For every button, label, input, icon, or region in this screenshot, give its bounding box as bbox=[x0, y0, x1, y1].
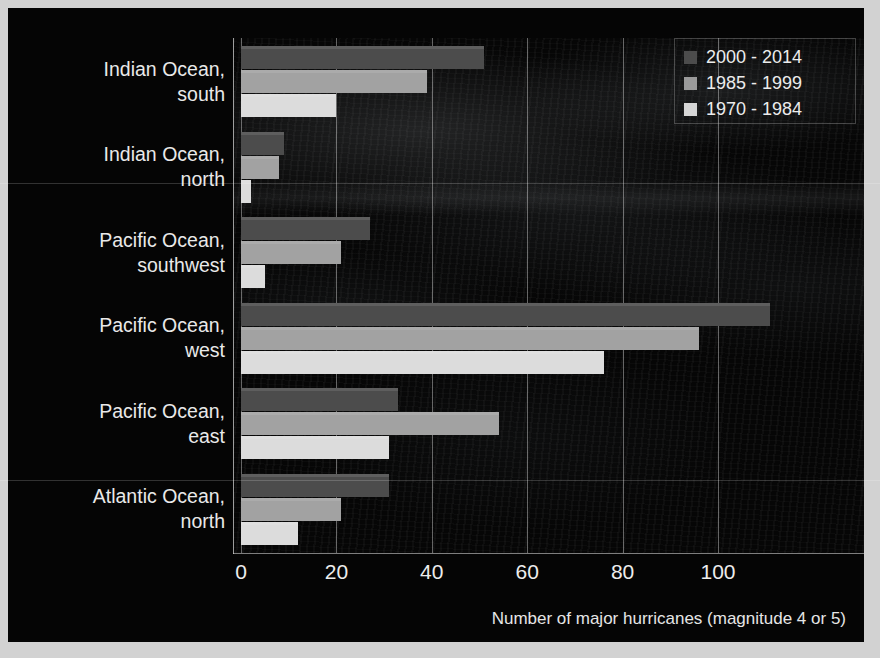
gridline-60 bbox=[527, 38, 528, 553]
legend-swatch-icon bbox=[684, 51, 697, 64]
x-tick-60: 60 bbox=[497, 560, 557, 584]
bar-2-series-1 bbox=[241, 241, 341, 264]
category-label-line1: Indian Ocean, bbox=[20, 57, 225, 82]
horizon-band bbox=[233, 180, 864, 216]
category-label-5: Atlantic Ocean,north bbox=[20, 484, 225, 534]
bar-0-series-1 bbox=[241, 70, 427, 93]
category-label-line1: Pacific Ocean, bbox=[20, 399, 225, 424]
gridline-80 bbox=[623, 38, 624, 553]
bar-1-series-1 bbox=[241, 156, 279, 179]
chart-frame: Indian Ocean,southIndian Ocean,northPaci… bbox=[0, 0, 880, 658]
category-label-line2: north bbox=[20, 509, 225, 534]
category-label-line2: north bbox=[20, 167, 225, 192]
x-tick-80: 80 bbox=[593, 560, 653, 584]
category-axis-line bbox=[233, 553, 864, 554]
chart-canvas: Indian Ocean,southIndian Ocean,northPaci… bbox=[8, 8, 864, 642]
gridline-40 bbox=[432, 38, 433, 553]
legend-entry-0: 2000 - 2014 bbox=[684, 44, 848, 70]
value-axis-line bbox=[233, 38, 234, 554]
legend-label: 1970 - 1984 bbox=[706, 99, 802, 120]
legend-swatch-icon bbox=[684, 77, 697, 90]
bar-1-series-0 bbox=[241, 132, 284, 155]
bar-4-series-0 bbox=[241, 388, 398, 411]
bar-0-series-0 bbox=[241, 46, 484, 69]
bar-5-series-1 bbox=[241, 498, 341, 521]
legend-entry-1: 1985 - 1999 bbox=[684, 70, 848, 96]
x-tick-20: 20 bbox=[306, 560, 366, 584]
category-label-line2: west bbox=[20, 338, 225, 363]
x-tick-0: 0 bbox=[211, 560, 271, 584]
category-label-line1: Pacific Ocean, bbox=[20, 313, 225, 338]
x-tick-100: 100 bbox=[688, 560, 748, 584]
category-label-line1: Pacific Ocean, bbox=[20, 228, 225, 253]
category-label-line2: southwest bbox=[20, 253, 225, 278]
chart-legend: 2000 - 20141985 - 19991970 - 1984 bbox=[674, 38, 856, 130]
category-label-line1: Atlantic Ocean, bbox=[20, 484, 225, 509]
category-label-2: Pacific Ocean,southwest bbox=[20, 228, 225, 278]
legend-label: 2000 - 2014 bbox=[706, 47, 802, 68]
legend-label: 1985 - 1999 bbox=[706, 73, 802, 94]
category-label-0: Indian Ocean,south bbox=[20, 57, 225, 107]
category-label-4: Pacific Ocean,east bbox=[20, 399, 225, 449]
x-tick-40: 40 bbox=[402, 560, 462, 584]
bar-4-series-1 bbox=[241, 412, 499, 435]
overlay-hairline-top bbox=[0, 183, 880, 184]
bar-0-series-2 bbox=[241, 94, 336, 117]
bar-5-series-2 bbox=[241, 522, 298, 545]
x-axis-title: Number of major hurricanes (magnitude 4 … bbox=[8, 609, 846, 629]
bar-3-series-1 bbox=[241, 327, 699, 350]
bar-2-series-0 bbox=[241, 217, 370, 240]
legend-entry-2: 1970 - 1984 bbox=[684, 96, 848, 122]
bar-3-series-0 bbox=[241, 303, 770, 326]
category-label-1: Indian Ocean,north bbox=[20, 142, 225, 192]
bar-3-series-2 bbox=[241, 351, 604, 374]
category-label-line2: east bbox=[20, 424, 225, 449]
bar-4-series-2 bbox=[241, 436, 389, 459]
category-label-line1: Indian Ocean, bbox=[20, 142, 225, 167]
bar-2-series-2 bbox=[241, 265, 265, 288]
category-label-3: Pacific Ocean,west bbox=[20, 313, 225, 363]
overlay-hairline-bottom bbox=[0, 480, 880, 481]
category-label-line2: south bbox=[20, 82, 225, 107]
bar-5-series-0 bbox=[241, 474, 389, 497]
legend-swatch-icon bbox=[684, 103, 697, 116]
